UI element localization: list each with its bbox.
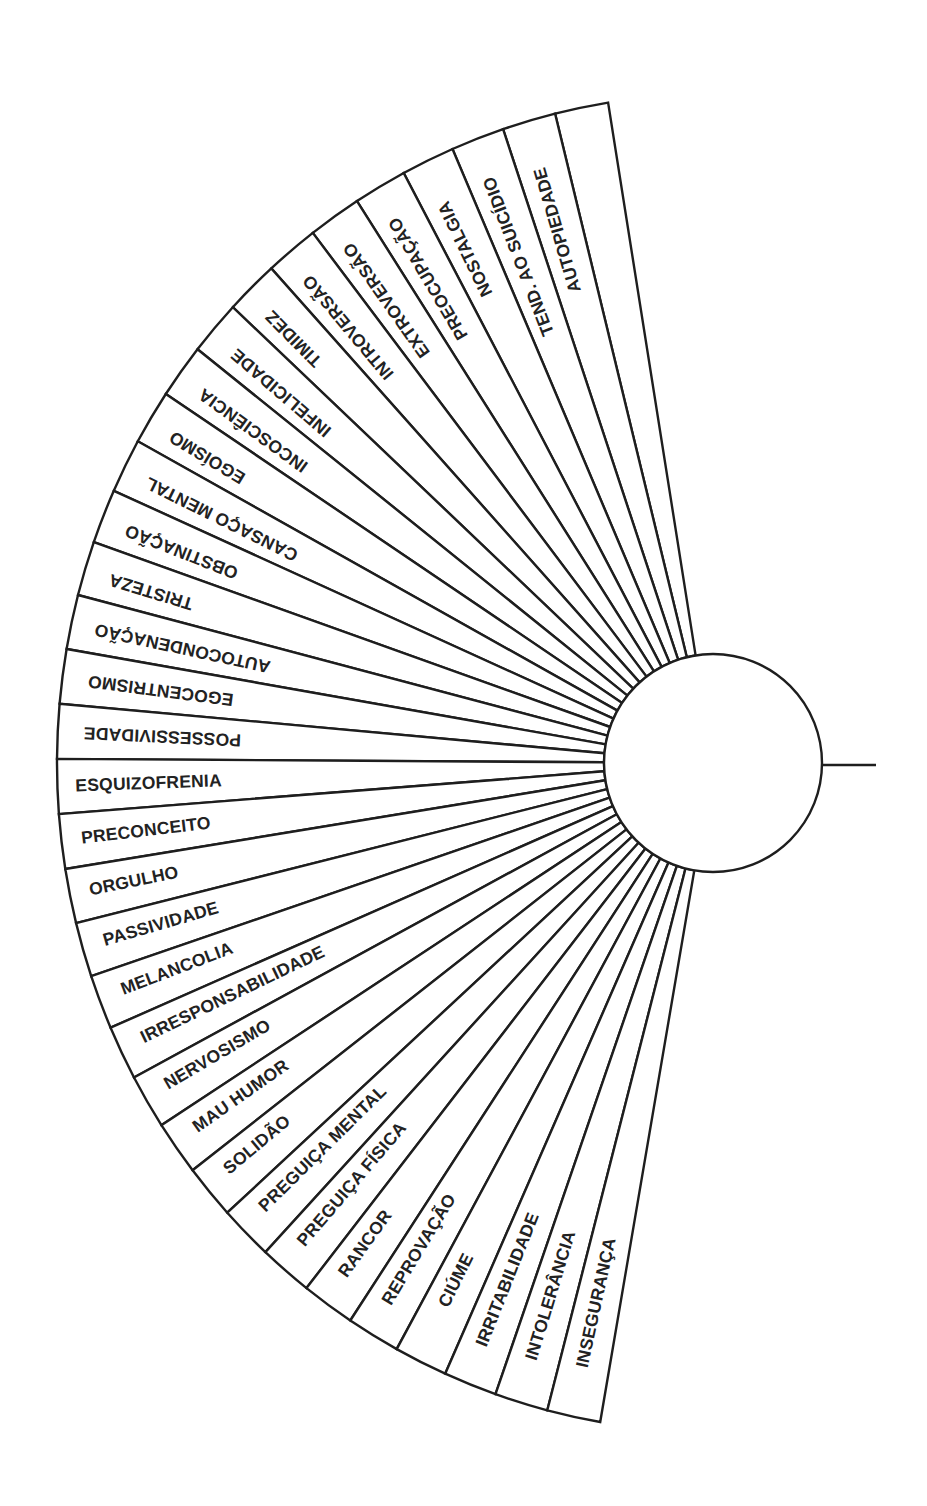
fan-diagram: AUTOPIEDADETEND. AO SUICÍDIONOSTALGIAPRE… bbox=[0, 0, 927, 1506]
center-hub-circle bbox=[604, 654, 822, 872]
